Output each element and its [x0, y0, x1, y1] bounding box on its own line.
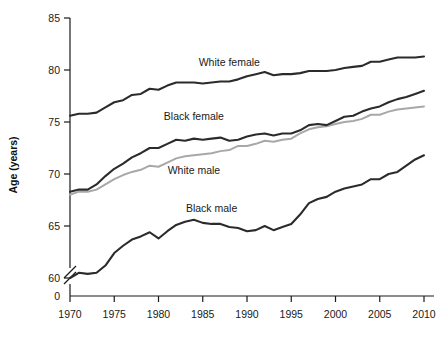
y-tick-label-65: 65: [48, 220, 60, 232]
series-label-black-female: Black female: [164, 110, 224, 122]
life-expectancy-chart: White femaleBlack femaleWhite maleBlack …: [0, 0, 448, 341]
series-lines: [70, 56, 424, 278]
series-line-white-male: [70, 106, 424, 194]
series-label-black-male: Black male: [186, 202, 238, 214]
x-tick-label-1970: 1970: [58, 308, 82, 320]
y-tick-label-60: 60: [48, 272, 60, 284]
chart-canvas: White femaleBlack femaleWhite maleBlack …: [0, 0, 448, 341]
x-tick-label-1985: 1985: [191, 308, 215, 320]
series-label-white-female: White female: [199, 56, 260, 68]
x-tick-label-1990: 1990: [235, 308, 259, 320]
x-tick-label-1995: 1995: [280, 308, 304, 320]
series-label-white-male: White male: [168, 164, 221, 176]
x-tick-label-2005: 2005: [368, 308, 392, 320]
x-tick-label-2000: 2000: [324, 308, 348, 320]
y-tick-label-70: 70: [48, 168, 60, 180]
y-tick-label-80: 80: [48, 64, 60, 76]
x-tick-label-2010: 2010: [412, 308, 436, 320]
x-tick-label-1980: 1980: [147, 308, 171, 320]
y-axis-title: Age (years): [7, 136, 19, 193]
y-tick-label-85: 85: [48, 12, 60, 24]
y-tick-label-75: 75: [48, 116, 60, 128]
series-annotations: White femaleBlack femaleWhite maleBlack …: [164, 56, 260, 215]
y-tick-label-0: 0: [54, 290, 60, 302]
x-tick-label-1975: 1975: [103, 308, 127, 320]
series-line-black-female: [70, 91, 424, 192]
series-line-black-male: [70, 155, 424, 278]
